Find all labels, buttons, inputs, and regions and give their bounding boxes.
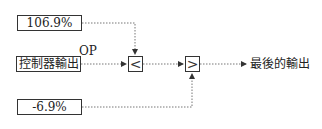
upper-limit-box: 106.9% [17,15,82,31]
lower-limit-box: -6.9% [17,99,82,115]
line-lower-to-max [82,74,192,107]
controller-output-box: 控制器輸出 [16,56,81,72]
greater-than-icon: > [187,56,199,72]
less-than-icon: < [130,56,142,72]
controller-output-label: 控制器輸出 [19,58,79,70]
final-output-label: 最後的輸出 [250,58,310,70]
op-label: OP [79,45,97,57]
max-selector-block: > [185,56,200,72]
upper-limit-value: 106.9% [27,17,73,29]
min-selector-block: < [128,56,143,72]
lower-limit-value: -6.9% [32,101,67,113]
